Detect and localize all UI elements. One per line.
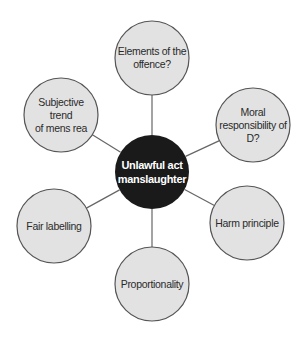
node-label-fair-labelling: Fair labelling (19, 189, 89, 263)
node-label-elements: Elements of the offence? (117, 21, 187, 95)
node-label-subjective-trend: Subjective trend of mens rea (26, 78, 96, 152)
node-label-harm-principle: Harm principle (212, 186, 282, 260)
connector-line-fair-labelling (86, 190, 119, 208)
node-label-moral-responsibility: Moral responsibility of D? (218, 88, 288, 162)
center-node-label: Unlawful act manslaughter (117, 135, 187, 209)
connector-line-moral (186, 141, 220, 157)
node-label-proportionality: Proportionality (117, 247, 187, 321)
connector-line-harm (185, 190, 215, 206)
